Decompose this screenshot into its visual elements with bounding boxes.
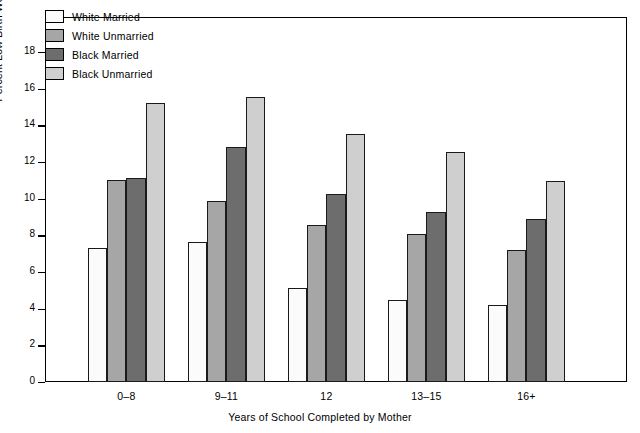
legend-item-2[interactable]: Black Married (45, 45, 154, 64)
legend-label: White Unmarried (72, 30, 154, 42)
y-tick-label: 2 (5, 338, 35, 349)
x-tick-label-3: 13–15 (381, 390, 471, 402)
legend-label: Black Married (72, 49, 139, 61)
y-tick-mark (38, 382, 45, 383)
y-tick-label: 0 (5, 375, 35, 386)
y-tick-label: 14 (5, 118, 35, 129)
x-tick-label-4: 16+ (481, 390, 571, 402)
x-tick-label-0: 0–8 (81, 390, 171, 402)
y-tick-mark (38, 52, 45, 53)
y-tick-mark (38, 199, 45, 200)
y-tick-label: 10 (5, 192, 35, 203)
legend-item-1[interactable]: White Unmarried (45, 26, 154, 45)
y-tick-label: 18 (5, 45, 35, 56)
y-tick-mark (38, 89, 45, 90)
y-tick-label: 4 (5, 302, 35, 313)
chart-legend: White MarriedWhite UnmarriedBlack Marrie… (45, 7, 154, 83)
legend-swatch-icon (45, 48, 64, 61)
legend-label: White Married (72, 11, 140, 23)
x-tick-label-2: 12 (281, 390, 371, 402)
y-tick-mark (38, 162, 45, 163)
x-tick-label-1: 9–11 (181, 390, 271, 402)
y-tick-label: 6 (5, 265, 35, 276)
legend-swatch-icon (45, 67, 64, 80)
legend-item-0[interactable]: White Married (45, 7, 154, 26)
y-tick-mark (38, 235, 45, 236)
y-tick-label: 16 (5, 82, 35, 93)
y-tick-mark (38, 345, 45, 346)
legend-item-3[interactable]: Black Unmarried (45, 64, 154, 83)
y-tick-mark (38, 309, 45, 310)
x-axis-title: Years of School Completed by Mother (0, 411, 640, 423)
legend-label: Black Unmarried (72, 68, 153, 80)
legend-swatch-icon (45, 10, 64, 23)
bar-chart-figure: Percent Low Birth Weight 024681012141618… (0, 0, 640, 433)
y-axis-title: Percent Low Birth Weight (0, 0, 4, 140)
y-tick-mark (38, 272, 45, 273)
y-tick-mark (38, 125, 45, 126)
y-tick-label: 8 (5, 228, 35, 239)
legend-swatch-icon (45, 29, 64, 42)
y-tick-label: 12 (5, 155, 35, 166)
